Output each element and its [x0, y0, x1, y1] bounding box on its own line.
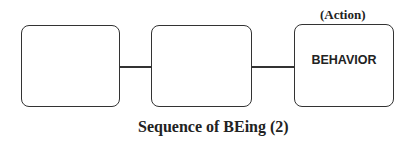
connector-box1-box2 — [120, 66, 151, 68]
behavior-label: BEHAVIOR — [295, 53, 393, 67]
sequence-box-3: BEHAVIOR — [294, 24, 394, 107]
sequence-box-2 — [151, 25, 252, 107]
sequence-box-1 — [21, 25, 120, 107]
diagram-title: Sequence of BEing (2) — [138, 118, 289, 136]
connector-box2-box3 — [252, 66, 294, 68]
box-3-annotation: (Action) — [320, 7, 366, 23]
